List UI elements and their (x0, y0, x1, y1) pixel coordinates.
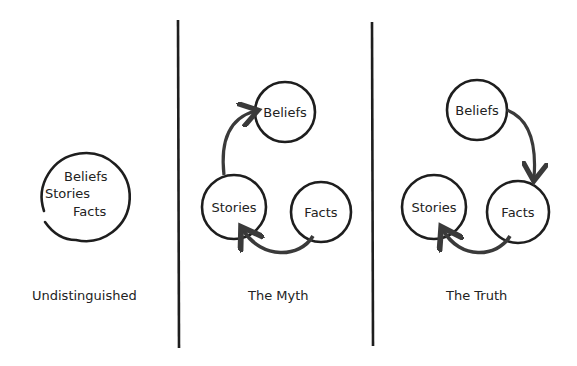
caption-the-truth: The Truth (445, 288, 507, 303)
label-beliefs: Beliefs (64, 169, 108, 184)
caption-undistinguished: Undistinguished (32, 288, 137, 303)
node-facts-label: Facts (304, 205, 337, 220)
divider-left (178, 20, 179, 348)
label-stories: Stories (45, 186, 90, 201)
node-stories-label: Stories (211, 200, 256, 215)
node-beliefs-label: Beliefs (455, 103, 499, 118)
diagram-canvas: Beliefs Stories Facts Undistinguished Be… (0, 0, 577, 366)
node-stories-label: Stories (411, 200, 456, 215)
panel-undistinguished: Beliefs Stories Facts Undistinguished (32, 153, 137, 303)
node-facts-label: Facts (501, 205, 534, 220)
divider-right (372, 22, 373, 346)
node-beliefs-label: Beliefs (263, 105, 307, 120)
panel-the-myth: Beliefs Stories Facts The Myth (202, 82, 351, 303)
caption-the-myth: The Myth (247, 288, 309, 303)
arrow-stories-to-beliefs (223, 111, 255, 175)
arrow-beliefs-to-facts (507, 110, 535, 178)
panel-the-truth: Beliefs Stories Facts The Truth (402, 80, 549, 303)
label-facts: Facts (73, 204, 106, 219)
